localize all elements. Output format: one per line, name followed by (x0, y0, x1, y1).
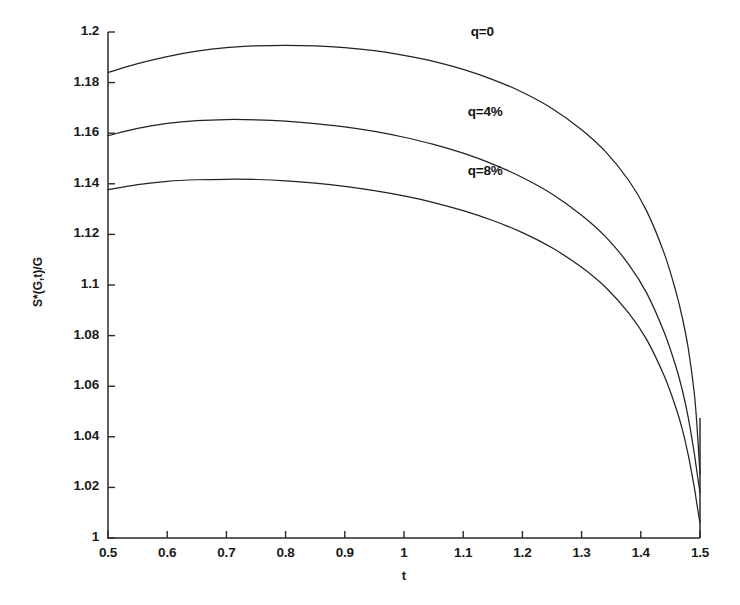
line-chart-canvas (0, 0, 740, 605)
y-tick-label: 1 (92, 529, 99, 544)
y-tick-label: 1.12 (74, 225, 99, 240)
axis-tick-marks (108, 32, 700, 538)
curve-q-8- (108, 179, 700, 523)
chart-figure: 11.021.041.061.081.11.121.141.161.181.2 … (0, 0, 740, 605)
x-axis-title: t (364, 568, 444, 583)
curve-label-q-8-: q=8% (468, 163, 503, 178)
curve-q-0 (108, 45, 700, 474)
y-tick-label: 1.18 (74, 74, 99, 89)
y-tick-label: 1.04 (74, 428, 99, 443)
x-tick-label: 1.5 (660, 545, 740, 560)
y-tick-label: 1.1 (81, 276, 99, 291)
curve-q-4- (108, 119, 700, 492)
y-axis-title: S*(G,t)/G (31, 242, 45, 322)
y-tick-label: 1.06 (74, 377, 99, 392)
y-tick-label: 1.16 (74, 124, 99, 139)
y-tick-label: 1.02 (74, 478, 99, 493)
curve-label-q-4-: q=4% (468, 104, 503, 119)
y-tick-label: 1.2 (81, 23, 99, 38)
y-tick-label: 1.14 (74, 175, 99, 190)
axes-lines (108, 32, 700, 538)
data-curves (108, 45, 700, 522)
y-tick-label: 1.08 (74, 327, 99, 342)
curve-label-q-0: q=0 (471, 24, 494, 39)
